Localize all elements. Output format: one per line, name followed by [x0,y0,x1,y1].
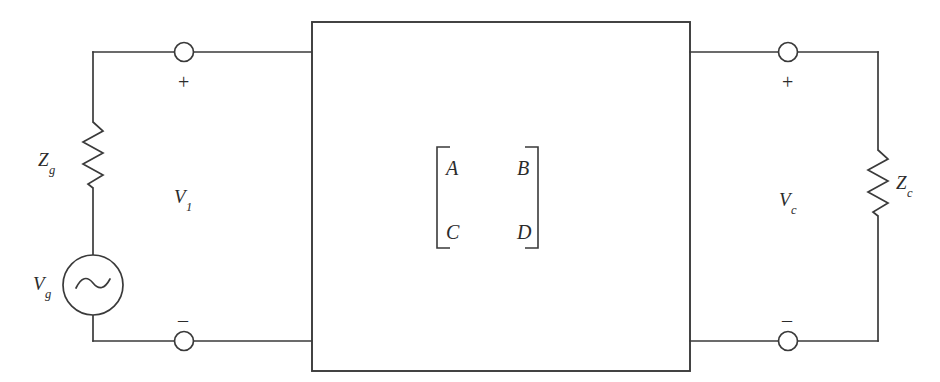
two-port-network-box-outline [312,22,690,371]
resistor-zigzag-icon-zc [868,150,888,216]
terminal-node-icon-left-bottom [175,332,194,351]
source-mesh-wires [93,52,312,341]
polarity-minus-left: – [178,310,188,330]
circuit-schematic-svg [0,0,940,382]
ac-source-icon [63,255,123,315]
label-vg: Vg [33,274,51,297]
terminal-node-icon-left-top [175,43,194,62]
circuit-diagram: Zg Vg V1 + – A B C D Zc Vc + – [0,0,940,382]
label-zg: Zg [38,150,55,173]
polarity-minus-right: – [782,310,792,330]
label-v1: V1 [174,187,192,210]
terminal-node-icon-right-bottom [779,332,798,351]
matrix-entry-b: B [517,158,529,178]
polarity-plus-left: + [178,72,189,92]
matrix-entry-a: A [446,158,458,178]
matrix-entry-c: C [446,222,459,242]
polarity-plus-right: + [782,72,793,92]
label-vc: Vc [779,190,796,213]
label-zc: Zc [896,173,912,196]
resistor-zigzag-icon-zg [83,122,103,188]
terminal-node-icon-right-top [779,43,798,62]
matrix-entry-d: D [517,222,531,242]
